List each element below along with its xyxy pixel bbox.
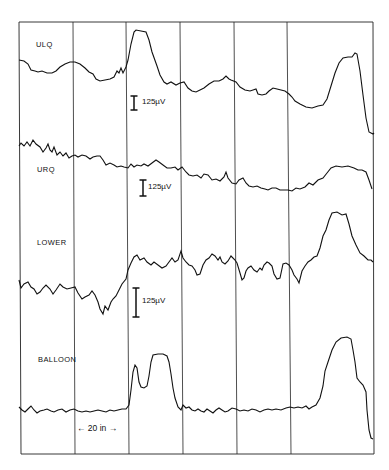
vertical-gridlines [73,22,291,454]
trace-urq [19,140,372,191]
chart-frame [19,22,374,454]
trace-label-urq: URQ [37,165,55,174]
trace-ulq [19,30,374,134]
scale-label-lower: 125µV [142,296,165,305]
scale-bar-lower [133,288,140,317]
trace-label-lower: LOWER [37,238,67,247]
trace-balloon [19,337,373,439]
scale-label-ulq: 125µV [142,97,165,106]
scale-bar-ulq [131,96,138,110]
distance-annotation: ← 20 in → [77,423,117,433]
scale-bar-urq [140,180,147,196]
trace-lower [19,212,373,314]
trace-label-balloon: BALLOON [38,355,76,364]
scale-label-urq: 125µV [148,182,171,191]
chart-figure [0,0,389,470]
trace-label-ulq: ULQ [36,40,53,49]
